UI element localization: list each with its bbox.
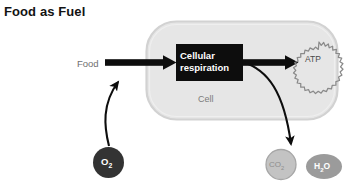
label-cellular-respiration: Cellular respiration xyxy=(180,50,229,73)
label-co2: CO2 xyxy=(269,161,284,169)
label-atp: ATP xyxy=(305,55,321,64)
label-food: Food xyxy=(77,59,99,69)
arrow-oxygen-to-food xyxy=(105,82,118,146)
label-o2: O2 xyxy=(101,157,112,167)
label-o2-subscript: 2 xyxy=(108,162,112,169)
figure-food-as-fuel: Food as Fuel xyxy=(0,0,350,189)
label-cell: Cell xyxy=(198,95,214,104)
label-co2-element: CO xyxy=(269,160,281,169)
diagram-canvas xyxy=(0,0,350,189)
label-h2o-suffix: O xyxy=(324,161,331,171)
label-cellular-respiration-line2: respiration xyxy=(180,62,229,73)
label-co2-subscript: 2 xyxy=(281,165,284,171)
label-cellular-respiration-line1: Cellular xyxy=(180,50,215,61)
label-h2o: H2O xyxy=(314,162,330,171)
arrow-food-to-respiration xyxy=(105,55,177,70)
